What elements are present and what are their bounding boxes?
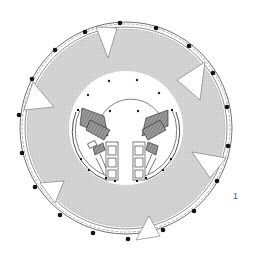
atrium — [69, 71, 183, 185]
floor-plan — [0, 0, 253, 258]
figure-label: 1 — [233, 191, 238, 201]
